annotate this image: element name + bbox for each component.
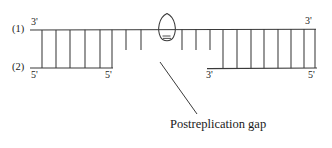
loop-inner-equals-mark [163,36,172,38]
strand-label-1: (1) [12,24,24,35]
unpaired-base-ticks-left [126,30,141,50]
postreplication-gap-figure: (1) (2) 3' 3' 5' 5' 3' 5' Postreplicatio… [0,0,332,148]
strand-label-2: (2) [12,62,24,73]
lesion-bubble-icon [159,14,176,41]
top-strand-backbone [30,29,316,30]
end-label-top-right: 3' [305,16,312,26]
annotation-caption: Postreplication gap [170,118,266,131]
end-label-bottom-right-start: 3' [206,70,213,80]
base-pair-rungs-left [42,30,112,68]
annotation-leader-line [160,62,197,114]
dna-duplex-diagram [0,0,332,148]
end-label-bottom-left-start: 5' [31,70,38,80]
end-label-bottom-left-end: 5' [105,70,112,80]
base-pair-rungs-right [223,29,315,69]
end-label-top-left: 3' [31,17,38,27]
unpaired-base-ticks-right [182,29,210,50]
end-label-bottom-right-end: 5' [308,70,315,80]
